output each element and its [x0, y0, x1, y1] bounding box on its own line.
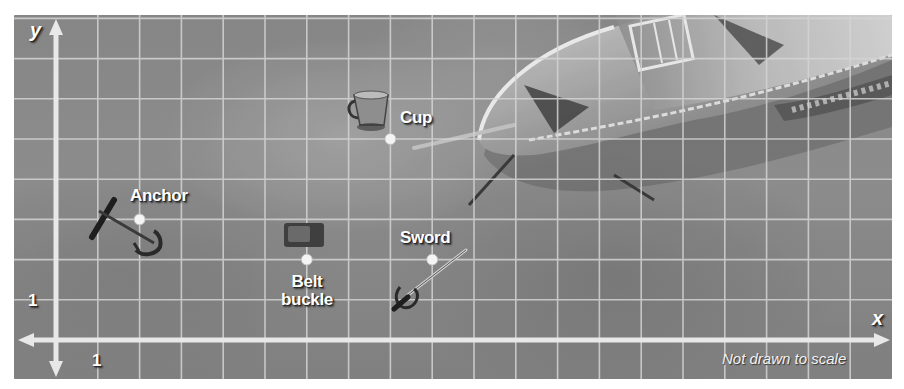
- shipwreck-image: [414, 15, 892, 205]
- y-tick-1: 1: [28, 291, 37, 311]
- coordinate-plane-figure: y x 1 1 Anchor Belt buckle Sword Cup Not…: [14, 15, 892, 379]
- cup-image: [349, 91, 388, 131]
- label-sword: Sword: [400, 229, 450, 247]
- belt-buckle-image: [284, 223, 324, 247]
- x-axis-arrow-left-icon: [18, 333, 34, 347]
- label-belt-buckle-line2: buckle: [274, 291, 340, 309]
- point-cup: [385, 134, 396, 145]
- y-axis-arrow-up-icon: [49, 19, 63, 35]
- point-anchor: [134, 214, 145, 225]
- label-cup: Cup: [400, 109, 432, 127]
- point-sword: [427, 254, 438, 265]
- y-axis-label: y: [30, 19, 41, 42]
- label-belt-buckle-line1: Belt: [274, 273, 340, 291]
- point-belt-buckle: [301, 254, 312, 265]
- label-anchor: Anchor: [130, 187, 188, 205]
- not-to-scale-note: Not drawn to scale: [722, 350, 846, 367]
- y-axis-arrow-down-icon: [49, 361, 63, 377]
- x-axis-arrow-right-icon: [874, 333, 890, 347]
- anchor-image: [92, 200, 161, 254]
- x-tick-1: 1: [92, 351, 101, 371]
- x-axis-label: x: [872, 307, 883, 330]
- label-belt-buckle: Belt buckle: [274, 273, 340, 309]
